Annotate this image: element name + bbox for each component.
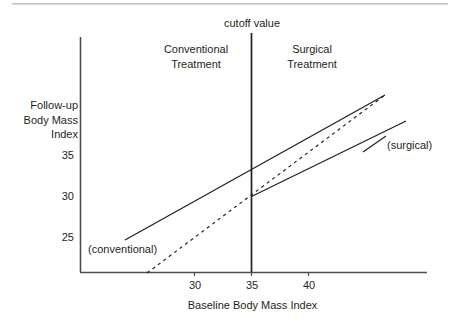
- region-label-surgical-treatment: Surgical Treatment: [266, 42, 358, 72]
- region-label-conventional-line-2: Treatment: [146, 57, 246, 72]
- series-line-surgical-counterfactual: [147, 95, 385, 273]
- x-tick-label-40: 40: [296, 279, 322, 291]
- series-line-conventional: [125, 95, 385, 240]
- y-tick-label-30: 30: [48, 190, 74, 202]
- region-label-surgical-line-1: Surgical: [266, 42, 358, 57]
- region-label-conventional-treatment: Conventional Treatment: [146, 42, 246, 72]
- y-axis-title-line-1: Follow-up: [6, 98, 78, 113]
- series-line-surgical: [252, 121, 407, 197]
- region-label-conventional-line-1: Conventional: [146, 42, 246, 57]
- y-tick-label-25: 25: [48, 231, 74, 243]
- cutoff-value-label: cutoff value: [203, 17, 301, 29]
- y-tick-label-35: 35: [48, 149, 74, 161]
- y-axis-title: Follow-up Body Mass Index: [6, 98, 78, 142]
- series-annotation-conventional: (conventional): [88, 243, 157, 255]
- surgical-annotation-leader: [363, 136, 386, 152]
- series-annotation-surgical: (surgical): [387, 139, 432, 151]
- x-tick-label-35: 35: [239, 279, 265, 291]
- y-axis-title-line-3: Index: [6, 127, 78, 142]
- x-tick-label-30: 30: [182, 279, 208, 291]
- x-axis-title: Baseline Body Mass Index: [135, 299, 370, 311]
- y-axis-title-line-2: Body Mass: [6, 113, 78, 128]
- chart-figure: Follow-up Body Mass Index 35 30 25 30 35…: [0, 0, 452, 332]
- region-label-surgical-line-2: Treatment: [266, 57, 358, 72]
